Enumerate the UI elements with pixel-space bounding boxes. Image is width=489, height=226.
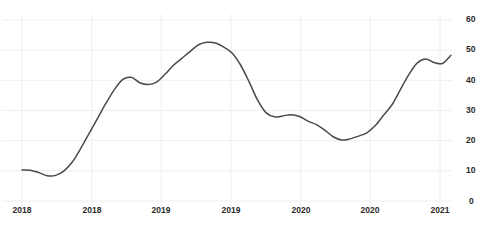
ytick-label-60: 60 <box>466 15 475 24</box>
xtick-label-6: 2021 <box>431 206 450 215</box>
xtick-label-2: 2019 <box>152 206 171 215</box>
xtick-label-0: 2018 <box>13 206 32 215</box>
ytick-label-0: 0 <box>469 197 474 206</box>
ytick-label-50: 50 <box>466 45 475 54</box>
series-line <box>22 42 451 176</box>
chart-plot-area <box>0 0 489 226</box>
ytick-label-20: 20 <box>466 136 475 145</box>
xtick-label-4: 2020 <box>292 206 311 215</box>
xtick-label-5: 2020 <box>361 206 380 215</box>
ytick-label-40: 40 <box>466 76 475 85</box>
ytick-label-10: 10 <box>466 166 475 175</box>
horizontal-gridlines <box>2 20 452 201</box>
xtick-label-1: 2018 <box>83 206 102 215</box>
xtick-label-3: 2019 <box>222 206 241 215</box>
chart-container: 60 50 40 30 20 10 0 2018 2018 2019 2019 … <box>0 0 489 226</box>
ytick-label-30: 30 <box>466 106 475 115</box>
